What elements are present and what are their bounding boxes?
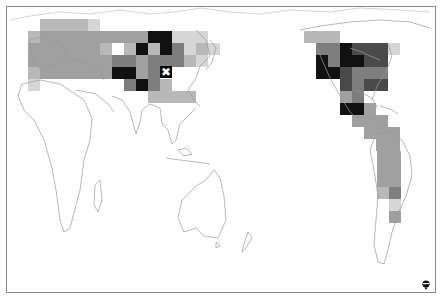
provider-logo-icon — [421, 280, 431, 290]
coastline-layer — [0, 0, 442, 300]
location-marker-x[interactable]: ✖ — [160, 66, 172, 78]
